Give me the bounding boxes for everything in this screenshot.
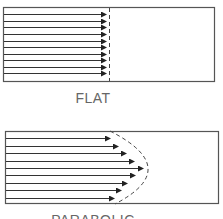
flow-profile-diagram <box>0 0 223 219</box>
flat-profile-label: FLAT <box>0 90 186 106</box>
pipe-outline <box>6 132 219 204</box>
parabolic-profile-label: PARABOLIC <box>0 212 186 219</box>
parabolic-front-dashed-curve <box>110 131 148 204</box>
parabolic-flow-panel <box>6 131 219 204</box>
flat-flow-panel <box>4 8 215 82</box>
